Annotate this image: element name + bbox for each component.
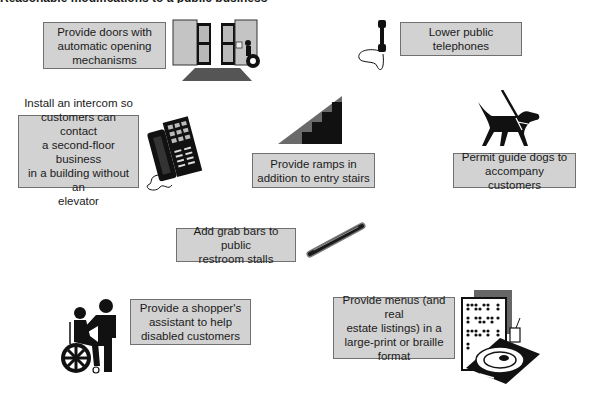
label-guide-dogs: Permit guide dogs to accompany customers [457,150,572,192]
ramp-stairs-icon [278,96,344,146]
label-box-doors: Provide doors with automatic opening mec… [43,22,166,69]
label-grab-bars: Add grab bars to public restroom stalls [180,224,292,266]
diagram-title: Reasonable modifications to a public bus… [0,0,596,3]
label-intercom: Install an intercom so customers can con… [22,96,135,208]
grab-bar-icon [304,220,368,260]
automatic-doors-icon [170,18,266,84]
label-box-grab-bars: Add grab bars to public restroom stalls [176,228,296,262]
label-box-intercom: Install an intercom so customers can con… [18,115,139,188]
label-menus: Provide menus (and real estate listings)… [337,293,451,363]
label-doors: Provide doors with automatic opening mec… [57,25,152,67]
intercom-phone-icon [144,115,204,193]
label-box-shopper-assistant: Provide a shopper's assistant to help di… [130,299,251,345]
label-box-menus: Provide menus (and real estate listings)… [333,297,455,359]
guide-dog-icon [470,90,550,148]
braille-menu-icon [460,288,544,384]
label-box-ramps: Provide ramps in addition to entry stair… [252,153,375,188]
telephone-handset-icon [353,18,393,74]
label-ramps: Provide ramps in addition to entry stair… [257,157,370,185]
label-box-telephones: Lower public telephones [400,22,522,56]
label-shopper-assistant: Provide a shopper's assistant to help di… [140,301,241,343]
label-box-guide-dogs: Permit guide dogs to accompany customers [453,153,576,188]
label-telephones: Lower public telephones [429,25,494,53]
wheelchair-assistant-icon [58,298,122,376]
